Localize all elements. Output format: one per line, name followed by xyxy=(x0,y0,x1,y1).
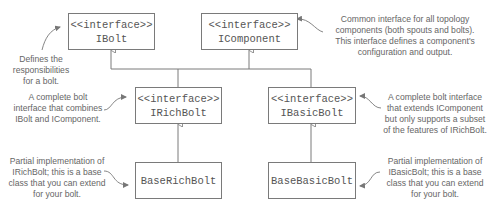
annotation-icomponent: Common interface for all topology compon… xyxy=(322,14,488,58)
annotation-ibasicbolt: A complete bolt interface that extends I… xyxy=(380,92,490,136)
class-box-ibasicbolt: <<interface>> IBasicBolt xyxy=(268,87,356,124)
class-name: IRichBolt xyxy=(150,106,207,120)
class-name: IBasicBolt xyxy=(280,106,343,120)
annotation-line: configuration and output. xyxy=(322,47,488,58)
annotation-line: Common interface for all topology xyxy=(322,14,488,25)
inheritance-connector-irichbolt xyxy=(111,50,249,87)
annotation-line: components (both spouts and bolts). xyxy=(322,25,488,36)
stereotype-label: <<interface>> xyxy=(209,18,291,32)
annotation-line: responsibilities xyxy=(6,65,76,76)
annotation-line: class that you can extend xyxy=(382,178,488,189)
annotation-line: Defines the xyxy=(6,54,76,65)
callout-arrow-ibasicbolt xyxy=(360,96,381,108)
annotation-line: A complete bolt xyxy=(8,92,108,103)
inheritance-connector-ibasicbolt xyxy=(249,69,311,87)
annotation-line: for your bolt. xyxy=(382,189,488,200)
class-name: BaseRichBolt xyxy=(141,174,217,188)
callout-arrow-basebasicbolt xyxy=(360,172,380,186)
annotation-irichbolt: A complete bolt interface that combines … xyxy=(8,92,108,125)
annotation-line: for a bolt. xyxy=(6,76,76,87)
class-hierarchy-diagram: <<interface>> IBolt <<interface>> ICompo… xyxy=(0,0,493,213)
annotation-line: of the features of IRichBolt. xyxy=(380,125,490,136)
annotation-line: IRichBolt; this is a base xyxy=(6,167,108,178)
annotation-line: This interface defines a component's xyxy=(322,36,488,47)
annotation-line: Partial implementation of xyxy=(6,156,108,167)
annotation-line: class that you can extend xyxy=(6,178,108,189)
class-box-ibolt: <<interface>> IBolt xyxy=(68,13,155,50)
class-box-baserichbolt: BaseRichBolt xyxy=(135,162,222,199)
callout-arrow-icomponent xyxy=(297,19,323,32)
annotation-line: IBolt and IComponent. xyxy=(8,114,108,125)
callout-arrow-ibolt xyxy=(42,27,60,50)
annotation-line: for your bolt. xyxy=(6,189,108,200)
annotation-line: A complete bolt interface xyxy=(380,92,490,103)
class-name: BaseBasicBolt xyxy=(271,174,353,188)
class-box-icomponent: <<interface>> IComponent xyxy=(201,13,298,50)
stereotype-label: <<interface>> xyxy=(271,92,353,106)
annotation-basebasicbolt: Partial implementation of IBasicBolt; th… xyxy=(382,156,488,200)
class-name: IBolt xyxy=(96,32,128,46)
annotation-baserichbolt: Partial implementation of IRichBolt; thi… xyxy=(6,156,108,200)
class-box-basebasicbolt: BaseBasicBolt xyxy=(268,162,356,199)
stereotype-label: <<interface>> xyxy=(138,92,220,106)
class-box-irichbolt: <<interface>> IRichBolt xyxy=(135,87,222,124)
annotation-line: IBasicBolt; this is a base xyxy=(382,167,488,178)
annotation-line: Partial implementation of xyxy=(382,156,488,167)
annotation-ibolt: Defines the responsibilities for a bolt. xyxy=(6,54,76,87)
annotation-line: that extends IComponent xyxy=(380,103,490,114)
annotation-line: but only supports a subset xyxy=(380,114,490,125)
class-name: IComponent xyxy=(218,32,281,46)
stereotype-label: <<interface>> xyxy=(71,18,153,32)
annotation-line: interface that combines xyxy=(8,103,108,114)
